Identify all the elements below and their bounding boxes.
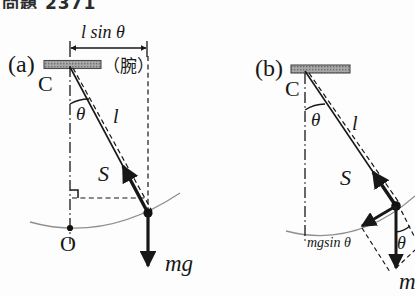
panel-b-weight-label: m xyxy=(399,270,416,293)
panel-b-tension-label: S xyxy=(340,167,351,189)
panel-a-length-label: l xyxy=(113,106,119,126)
panel-b-angle-label-bob: θ xyxy=(397,234,406,252)
panel-b-pivot-label: C xyxy=(285,78,300,100)
panel-b-angle-arc-bob xyxy=(396,226,410,232)
panel-b-tag: (b) xyxy=(255,56,283,80)
panel-b-ceiling-block xyxy=(291,65,350,73)
panel-b-tangential-label: mgsin θ xyxy=(307,236,351,250)
panel-a-angle-label: θ xyxy=(76,104,85,123)
panel-a-weight-label: mg xyxy=(165,252,193,275)
panel-b-tangential-arrow xyxy=(362,206,396,226)
panel-a-right-angle-marker xyxy=(70,190,78,198)
panel-a-tag: (a) xyxy=(8,52,35,76)
panel-a-dimension-label: l sin θ xyxy=(81,23,125,41)
panel-b-decomposition-side xyxy=(362,228,390,272)
panel-a-origin-label: O xyxy=(60,233,76,255)
panel-b-length-label: l xyxy=(352,113,358,133)
panel-a-arm-label: （腕） xyxy=(103,58,154,75)
panel-a-swing-arc xyxy=(30,193,180,228)
panel-a-tension-arrow xyxy=(123,166,148,213)
panel-a-tension-label: S xyxy=(98,163,109,185)
panel-b-length-line xyxy=(309,73,400,204)
panel-a-pivot-label: C xyxy=(38,73,53,95)
panel-a-ceiling-block xyxy=(44,61,101,69)
panel-a-length-line xyxy=(73,68,152,211)
panel-b-tension-arrow xyxy=(373,172,396,206)
panel-b-angle-label-top: θ xyxy=(311,110,320,129)
